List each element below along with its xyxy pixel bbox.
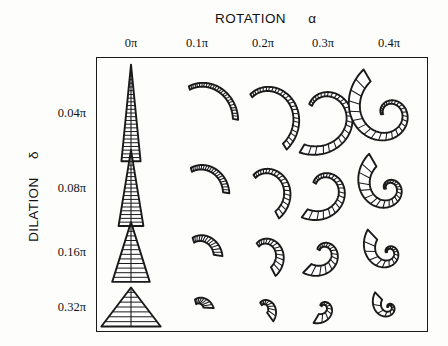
column-label-3: 0.3π xyxy=(298,36,348,51)
column-label-0: 0π xyxy=(106,36,156,51)
y-axis-title: DILATION δ xyxy=(26,142,41,252)
shell-outline xyxy=(372,291,395,318)
x-axis-title: ROTATION α xyxy=(215,11,316,26)
y-axis-symbol-delta: δ xyxy=(26,151,41,159)
column-label-4: 0.4π xyxy=(364,36,414,51)
x-axis-symbol-alpha: α xyxy=(308,11,316,26)
x-axis-title-text: ROTATION xyxy=(215,11,286,26)
column-label-2: 0.2π xyxy=(238,36,288,51)
shell-cell-032-04 xyxy=(329,247,448,346)
column-label-1: 0.1π xyxy=(172,36,222,51)
shell-morphology-figure: ROTATION α DILATION δ 0π 0.1π 0.2π 0.3π … xyxy=(0,0,448,346)
